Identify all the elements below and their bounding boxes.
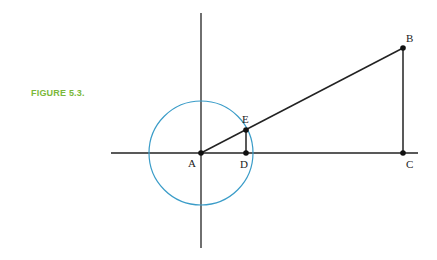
- point-B: [400, 45, 406, 51]
- segment-AB: [201, 48, 403, 153]
- label-D: D: [240, 158, 248, 170]
- label-B: B: [406, 32, 413, 44]
- point-C: [400, 150, 406, 156]
- point-A: [198, 150, 204, 156]
- point-E: [243, 127, 249, 133]
- label-E: E: [242, 113, 249, 125]
- geometry-diagram: A B C D E: [0, 0, 437, 260]
- label-C: C: [406, 158, 413, 170]
- point-D: [243, 150, 249, 156]
- label-A: A: [188, 157, 196, 169]
